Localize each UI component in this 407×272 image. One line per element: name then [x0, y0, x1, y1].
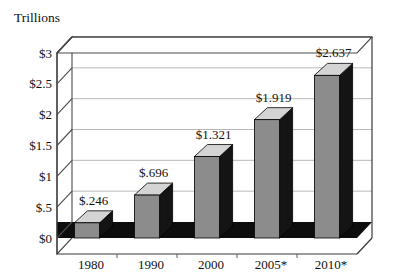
y-axis-tick-label: $0: [39, 231, 52, 246]
y-axis-tick-label: $.5: [36, 200, 52, 215]
y-axis-title: Trillions: [14, 10, 60, 25]
x-axis-tick-label: 1990: [138, 257, 164, 272]
bar-value-label: $.696: [139, 165, 169, 180]
chart-canvas: Trillions $0$.5$1$1.5$2$2.5$3 1980199020…: [0, 0, 407, 272]
x-axis-tick-label: 1980: [78, 257, 104, 272]
x-axis-tick-label: 2010*: [315, 257, 348, 272]
y-axis-tick-label: $3: [39, 46, 52, 61]
bar-front-face: [314, 75, 339, 238]
bar-chart: Trillions $0$.5$1$1.5$2$2.5$3 1980199020…: [0, 0, 407, 272]
y-axis-tick-label: $1: [39, 169, 52, 184]
x-axis-tick-label: 2000: [198, 257, 224, 272]
bar-front-face: [74, 223, 99, 238]
bar-value-label: $1.321: [196, 127, 232, 142]
bar: [134, 183, 172, 238]
y-axis-tick-label: $2: [39, 107, 52, 122]
x-axis-tick-label: 2005*: [255, 257, 288, 272]
bar-value-label: $.246: [79, 193, 109, 208]
bar-value-label: $1.919: [256, 90, 292, 105]
bar-side-face: [220, 145, 233, 238]
bar: [314, 63, 352, 238]
y-axis-tick-label: $2.5: [29, 76, 52, 91]
bar: [194, 145, 232, 238]
y-axis-tick-label: $1.5: [29, 138, 52, 153]
bar-front-face: [134, 195, 159, 238]
bar-front-face: [194, 157, 219, 238]
bar-side-face: [340, 63, 353, 238]
bar: [254, 108, 292, 238]
bar-value-label: $2.637: [316, 45, 352, 60]
bar-side-face: [280, 108, 293, 238]
bar-front-face: [254, 120, 279, 238]
